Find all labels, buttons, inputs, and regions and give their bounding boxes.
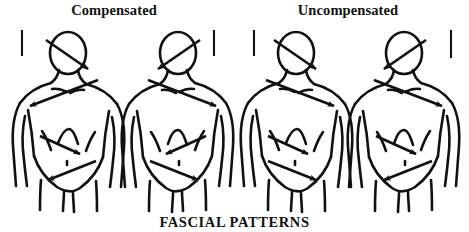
pelvis-left — [262, 156, 296, 191]
neck-right — [413, 70, 421, 83]
leg-right-inner — [301, 193, 302, 212]
rib-right — [421, 131, 430, 150]
shoulder-left — [129, 84, 160, 104]
sternum-arch — [58, 129, 78, 144]
rib-right — [314, 132, 323, 151]
torso-right — [438, 110, 444, 156]
shoulder-left — [355, 84, 386, 104]
leg-right-outer — [96, 181, 97, 211]
arm-right-inner — [110, 117, 114, 187]
pelvis-right — [68, 157, 103, 191]
torso-left — [137, 111, 143, 157]
leg-right-inner — [182, 192, 183, 211]
arm-left-inner — [251, 116, 255, 186]
leg-right-inner — [73, 193, 74, 212]
arm-left-inner — [23, 116, 27, 186]
figure-3-body — [241, 32, 352, 212]
leg-right-outer — [324, 181, 325, 211]
arm-left-outer — [13, 103, 20, 186]
torso-left — [363, 111, 369, 157]
arrow-shoulder-down-right — [266, 80, 334, 106]
leg-left-outer — [149, 181, 150, 211]
arrow-shoulder-down-left — [30, 80, 98, 106]
arm-right-inner — [338, 117, 342, 187]
head-outline — [386, 32, 422, 74]
arm-right-outer — [452, 103, 459, 186]
sternum-arch — [168, 130, 187, 145]
shoulder-left — [248, 83, 279, 103]
leg-left-inner — [291, 192, 292, 211]
rib-left — [377, 132, 386, 151]
rib-left — [151, 132, 160, 151]
leg-left-inner — [63, 192, 64, 211]
arrow-shoulder-down-right — [148, 80, 216, 106]
leg-left-outer — [375, 181, 376, 211]
arm-right-outer — [226, 103, 233, 186]
pelvis-right — [404, 156, 438, 191]
torso-left — [256, 110, 262, 156]
neck-left — [51, 70, 59, 83]
arrow-shoulder-down-right — [374, 80, 442, 106]
arm-left-outer — [241, 103, 248, 186]
neck-left — [160, 70, 168, 84]
arm-left-inner — [132, 117, 136, 187]
torso-left — [28, 110, 34, 156]
head-outline — [278, 32, 314, 74]
rib-right — [86, 132, 95, 151]
head-outline — [50, 32, 86, 74]
leg-left-inner — [398, 193, 399, 212]
neck-left — [279, 70, 287, 83]
leg-right-outer — [205, 180, 206, 210]
figure-2-body — [122, 32, 233, 212]
leg-left-inner — [172, 193, 173, 212]
arm-right-inner — [219, 116, 223, 186]
fascial-patterns-figure: Compensated Uncompensated — [0, 0, 469, 232]
figure-caption: FASCIAL PATTERNS — [0, 214, 469, 231]
neck-right — [306, 70, 314, 84]
neck-right — [78, 70, 86, 84]
figure-4-body — [348, 32, 459, 212]
torso-right — [103, 111, 109, 157]
arm-right-inner — [445, 116, 449, 186]
sternum-arch — [394, 130, 413, 145]
head-outline — [160, 32, 196, 74]
torso-right — [212, 110, 218, 156]
figure-1-body — [13, 32, 124, 212]
arm-left-inner — [358, 117, 362, 187]
neck-right — [187, 70, 195, 83]
neck-left — [386, 70, 394, 84]
arrow-pelvis-down-right — [150, 161, 198, 180]
leg-right-inner — [408, 192, 409, 211]
pelvis-left — [143, 157, 178, 191]
leg-left-outer — [268, 180, 269, 210]
arrow-pelvis-down-left — [48, 161, 96, 180]
shoulder-right — [86, 84, 117, 104]
sternum-arch — [286, 129, 306, 144]
anatomical-diagram — [0, 0, 469, 232]
leg-right-outer — [431, 180, 432, 210]
torso-right — [331, 111, 337, 157]
leg-left-outer — [40, 180, 41, 210]
